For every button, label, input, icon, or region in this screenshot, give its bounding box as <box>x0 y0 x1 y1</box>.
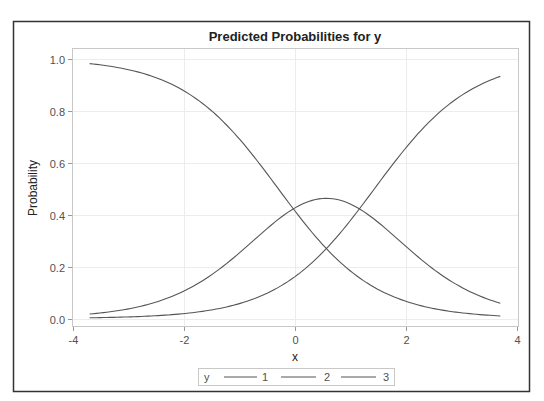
chart: Predicted Probabilities for y 0.00.20.40… <box>0 0 544 401</box>
legend: y 1 2 3 <box>199 369 395 386</box>
legend-label-1: 1 <box>262 371 268 383</box>
graph-frame <box>14 22 530 392</box>
x-axis-title: x <box>292 350 298 364</box>
x-tick-label: 2 <box>403 334 409 346</box>
y-tick-label: 1.0 <box>50 54 65 66</box>
x-tick-label: -2 <box>180 334 190 346</box>
x-tick-label: -4 <box>69 334 79 346</box>
legend-title: y <box>204 371 210 383</box>
chart-title: Predicted Probabilities for y <box>209 29 382 44</box>
legend-label-3: 3 <box>383 371 389 383</box>
y-tick-label: 0.8 <box>50 106 65 118</box>
y-axis-title: Probability <box>26 160 40 216</box>
y-tick-label: 0.6 <box>50 158 65 170</box>
y-tick-label: 0.0 <box>50 314 65 326</box>
y-tick-label: 0.2 <box>50 262 65 274</box>
x-tick-label: 4 <box>514 334 520 346</box>
x-tick-label: 0 <box>292 334 298 346</box>
legend-label-2: 2 <box>324 371 330 383</box>
y-tick-label: 0.4 <box>50 210 65 222</box>
